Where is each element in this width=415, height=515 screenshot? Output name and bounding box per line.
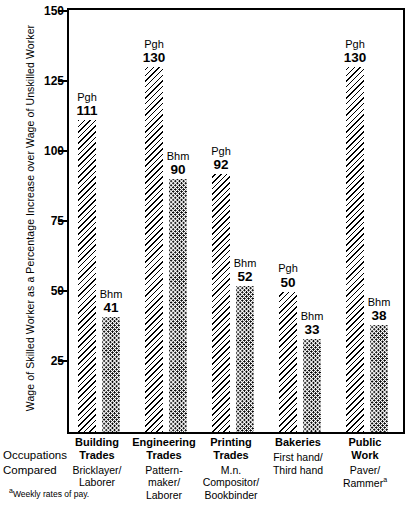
bar-city-label: Bhm bbox=[88, 289, 134, 301]
bar-label-public-work-bhm: Bhm38 bbox=[356, 297, 402, 323]
bar-label-printing-trades-pgh: Pgh92 bbox=[198, 146, 244, 172]
x-group-occupation-line2: Compositor/ bbox=[186, 476, 276, 489]
bar-city-label: Bhm bbox=[155, 151, 201, 163]
bar-label-engineering-trades-pgh: Pgh130 bbox=[131, 39, 177, 65]
bar-city-label: Pgh bbox=[198, 146, 244, 158]
bar-label-printing-trades-bhm: Bhm52 bbox=[222, 258, 268, 284]
x-group-label-public: PublicWorkPaver/Rammera bbox=[320, 436, 410, 489]
bar-public-work-pgh bbox=[346, 67, 364, 432]
x-group-occupation-line2: Rammera bbox=[320, 476, 410, 489]
bar-city-label: Bhm bbox=[356, 297, 402, 309]
y-tick-label-125: 125 bbox=[24, 75, 64, 87]
bar-value-label: 38 bbox=[356, 309, 402, 323]
x-group-heading-line2: Work bbox=[320, 449, 410, 462]
bar-city-label: Pgh bbox=[265, 263, 311, 275]
bar-value-label: 92 bbox=[198, 158, 244, 172]
y-tick-label-25: 25 bbox=[24, 355, 64, 367]
bar-value-label: 130 bbox=[131, 51, 177, 65]
bar-engineering-trades-pgh bbox=[145, 67, 163, 432]
x-group-occupations: Paver/Rammera bbox=[320, 464, 410, 490]
bar-printing-trades-bhm bbox=[236, 286, 254, 432]
y-tick-label-100: 100 bbox=[24, 145, 64, 157]
bar-value-label: 50 bbox=[265, 276, 311, 290]
bar-value-label: 52 bbox=[222, 270, 268, 284]
bar-label-building-trades-pgh: Pgh111 bbox=[64, 92, 110, 118]
bar-building-trades-bhm bbox=[102, 317, 120, 432]
bar-value-label: 111 bbox=[64, 104, 110, 118]
footnote-text: Weekly rates of pay. bbox=[13, 489, 89, 499]
bar-label-public-work-pgh: Pgh130 bbox=[332, 39, 378, 65]
bar-label-bakeries-pgh: Pgh50 bbox=[265, 263, 311, 289]
bar-city-label: Pgh bbox=[64, 92, 110, 104]
x-axis-caption: Occupations Compared bbox=[3, 448, 67, 478]
bar-bakeries-bhm bbox=[303, 339, 321, 432]
y-tick-label-75: 75 bbox=[24, 215, 64, 227]
bar-city-label: Bhm bbox=[289, 311, 335, 323]
bar-printing-trades-pgh bbox=[212, 174, 230, 432]
x-group-occupation-line3: Bookbinder bbox=[186, 489, 276, 502]
x-group-heading-line1: Public bbox=[320, 436, 410, 449]
bar-city-label: Pgh bbox=[332, 39, 378, 51]
bar-city-label: Bhm bbox=[222, 258, 268, 270]
y-tick-label-50: 50 bbox=[24, 285, 64, 297]
bar-value-label: 41 bbox=[88, 301, 134, 315]
footnote-ref-marker: a bbox=[383, 476, 387, 483]
x-axis-group-labels: BuildingTradesBricklayer/LaborerEngineer… bbox=[67, 436, 405, 515]
bar-label-building-trades-bhm: Bhm41 bbox=[88, 289, 134, 315]
chart-footnote: aWeekly rates of pay. bbox=[9, 487, 89, 499]
chart-plot-area: Pgh111Bhm41Pgh130Bhm90Pgh92Bhm52Pgh50Bhm… bbox=[67, 8, 405, 434]
bar-city-label: Pgh bbox=[131, 39, 177, 51]
bar-label-bakeries-bhm: Bhm33 bbox=[289, 311, 335, 337]
bar-engineering-trades-bhm bbox=[169, 179, 187, 432]
x-group-heading: PublicWork bbox=[320, 436, 410, 461]
bar-public-work-bhm bbox=[370, 325, 388, 432]
bar-value-label: 130 bbox=[332, 51, 378, 65]
bar-label-engineering-trades-bhm: Bhm90 bbox=[155, 151, 201, 177]
x-axis-caption-line1: Occupations bbox=[3, 448, 67, 463]
bar-building-trades-pgh bbox=[78, 120, 96, 432]
x-axis-caption-line2: Compared bbox=[3, 463, 67, 478]
bar-value-label: 33 bbox=[289, 323, 335, 337]
y-tick-label-150: 150 bbox=[24, 5, 64, 17]
bar-value-label: 90 bbox=[155, 163, 201, 177]
bars-layer: Pgh111Bhm41Pgh130Bhm90Pgh92Bhm52Pgh50Bhm… bbox=[69, 10, 403, 432]
x-group-occupation-line1: Paver/ bbox=[320, 464, 410, 477]
